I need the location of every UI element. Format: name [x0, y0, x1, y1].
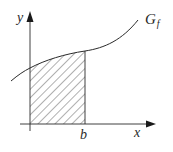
area-under-curve-diagram: y x b Gf	[0, 0, 173, 152]
graph-label: Gf	[145, 11, 161, 29]
graph-label-main: G	[145, 11, 156, 27]
y-axis-arrow-icon	[27, 11, 34, 22]
x-axis-arrow-icon	[146, 121, 156, 128]
x-axis-label: x	[133, 125, 141, 140]
graph-label-subscript: f	[157, 18, 161, 29]
hatched-area	[30, 40, 86, 130]
bound-label-b: b	[80, 127, 87, 142]
y-axis-label: y	[15, 10, 24, 25]
